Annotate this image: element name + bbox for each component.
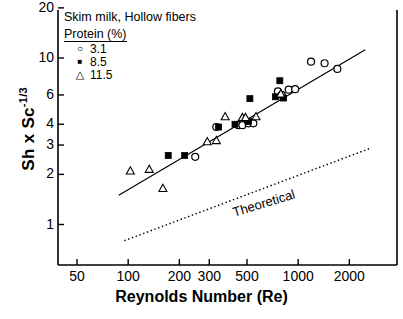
data-point-3.1 bbox=[292, 86, 299, 93]
legend-marker-icon: △ bbox=[72, 68, 88, 81]
y-axis-title-exponent: -1/3 bbox=[17, 87, 29, 107]
data-point-8.5 bbox=[182, 152, 188, 158]
y-tick-label: 20 bbox=[10, 0, 54, 15]
data-point-11.5 bbox=[145, 165, 153, 172]
legend-entry: ○3.1 bbox=[72, 42, 196, 55]
data-point-11.5 bbox=[221, 113, 229, 120]
y-axis-title: Sh x Sc-1/3 bbox=[17, 59, 39, 199]
chart-legend: Skim milk, Hollow fibers Protein (%) ○3.… bbox=[64, 10, 196, 81]
theoretical-line bbox=[124, 149, 369, 241]
x-axis-title: Reynolds Number (Re) bbox=[0, 288, 403, 306]
data-point-8.5 bbox=[247, 96, 253, 102]
data-point-8.5 bbox=[216, 124, 222, 130]
y-axis-title-base: Sh x Sc bbox=[19, 107, 38, 171]
data-point-11.5 bbox=[212, 136, 220, 143]
legend-entry-label: 11.5 bbox=[90, 68, 112, 82]
legend-entry-label: 3.1 bbox=[90, 42, 107, 56]
data-point-3.1 bbox=[192, 153, 199, 160]
data-point-8.5 bbox=[165, 152, 171, 158]
chart-figure: 123461020 5010020030050010002000 Sh x Sc… bbox=[0, 0, 403, 319]
legend-entry: ■8.5 bbox=[72, 55, 196, 68]
data-point-3.1 bbox=[308, 58, 315, 65]
legend-marker-icon: ○ bbox=[72, 43, 88, 54]
legend-title-line2: Protein (%) bbox=[64, 27, 127, 42]
legend-entry-label: 8.5 bbox=[90, 55, 107, 69]
legend-marker-icon: ■ bbox=[72, 57, 88, 66]
legend-entry: △11.5 bbox=[72, 68, 196, 81]
legend-entries: ○3.1■8.5△11.5 bbox=[64, 42, 196, 81]
data-point-8.5 bbox=[232, 121, 238, 127]
data-point-3.1 bbox=[334, 65, 341, 72]
legend-title-line1: Skim milk, Hollow fibers bbox=[64, 10, 196, 24]
x-tick-label: 2000 bbox=[319, 268, 379, 284]
data-point-8.5 bbox=[277, 78, 283, 84]
data-point-11.5 bbox=[126, 167, 134, 174]
data-point-3.1 bbox=[321, 60, 328, 67]
x-axis-ticks bbox=[77, 259, 349, 265]
y-tick-label: 1 bbox=[10, 216, 54, 232]
data-point-11.5 bbox=[159, 184, 167, 191]
